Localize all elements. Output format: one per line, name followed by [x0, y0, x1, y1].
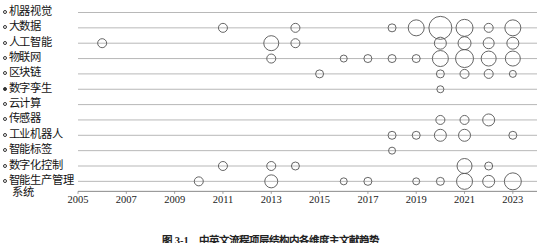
category-bullet-icon: [3, 25, 7, 29]
figure-caption: 图 3-1 中英文流程项层结构内各维度主文献趋势: [0, 232, 541, 243]
x-tick-label-2013: 2013: [261, 194, 282, 205]
category-label-7[interactable]: 云计算: [3, 98, 41, 110]
category-label-text: 区块链: [9, 66, 41, 78]
x-tick-label-2017: 2017: [357, 194, 378, 205]
x-tick-label-2005: 2005: [68, 194, 89, 205]
category-bullet-icon: [3, 56, 7, 60]
x-tick-label-2019: 2019: [406, 194, 427, 205]
category-label-text: 数字化控制: [9, 159, 63, 171]
category-bullet-icon: [3, 71, 7, 75]
category-label-8[interactable]: 传感器: [3, 113, 41, 125]
category-label-text: 数字孪生: [9, 82, 52, 94]
category-label-9[interactable]: 工业机器人: [3, 129, 63, 141]
category-label-5[interactable]: 区块链: [3, 67, 41, 79]
category-label-2[interactable]: 大数据: [3, 21, 41, 33]
category-label-1[interactable]: 机器视觉: [3, 6, 52, 18]
category-label-text: 云计算: [9, 97, 41, 109]
category-label-text: 大数据: [9, 20, 41, 32]
plot-area: [0, 0, 541, 243]
x-tick-label-2009: 2009: [164, 194, 185, 205]
category-label-4[interactable]: 物联网: [3, 52, 41, 64]
bubble-chart-figure: 机器视觉大数据人工智能物联网区块链数字孪生云计算传感器工业机器人智能标签数字化控…: [0, 0, 541, 243]
category-label-text: 智能标签: [9, 143, 52, 155]
category-bullet-icon: [3, 87, 7, 91]
category-bullet-icon: [3, 117, 7, 121]
x-tick-label-2023: 2023: [502, 194, 523, 205]
category-label-text: 物联网: [9, 51, 41, 63]
category-label-text: 人工智能: [9, 36, 52, 48]
category-bullet-icon: [3, 148, 7, 152]
category-bullet-icon: [3, 102, 7, 106]
category-bullet-icon: [3, 41, 7, 45]
x-tick-label-2021: 2021: [454, 194, 475, 205]
x-tick-label-2015: 2015: [309, 194, 330, 205]
x-tick-label-2011: 2011: [213, 194, 234, 205]
category-label-11[interactable]: 数字化控制: [3, 160, 63, 172]
category-label-text-line2: 系统: [3, 187, 73, 199]
category-label-6[interactable]: 数字孪生: [3, 83, 52, 95]
category-label-3[interactable]: 人工智能: [3, 37, 52, 49]
category-bullet-icon: [3, 164, 7, 168]
category-label-10[interactable]: 智能标签: [3, 144, 52, 156]
category-label-text: 工业机器人: [9, 128, 63, 140]
category-bullet-icon: [3, 133, 7, 137]
category-label-text: 传感器: [9, 112, 41, 124]
x-tick-label-2007: 2007: [116, 194, 137, 205]
category-label-text: 智能生产管理: [9, 174, 74, 186]
category-bullet-icon: [3, 10, 7, 14]
category-bullet-icon: [3, 179, 7, 183]
category-label-text: 机器视觉: [9, 5, 52, 17]
category-label-12[interactable]: 智能生产管理系统: [3, 175, 73, 198]
